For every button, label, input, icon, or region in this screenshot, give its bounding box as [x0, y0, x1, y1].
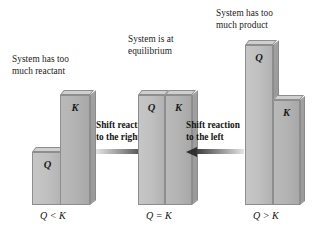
bar-label-k: K [166, 102, 191, 113]
bar-k-group3: K [273, 95, 300, 205]
bar-label-q: Q [33, 159, 62, 170]
relation-q-eq-k: Q = K [146, 210, 172, 221]
bar-front-face: Q [32, 152, 63, 205]
caption-at-equilibrium: System is at equilibrium [128, 34, 220, 57]
bar-side-face [300, 96, 305, 205]
bar-front-face: K [60, 95, 90, 205]
bar-label-q: Q [139, 102, 164, 113]
bar-q-group2: Q [138, 90, 165, 205]
relation-q-lt-k: Q < K [40, 210, 66, 221]
bar-front-face: Q [138, 95, 165, 205]
arrow-shaft [196, 149, 244, 154]
caption-too-much-reactant: System has too much reactant [12, 54, 116, 77]
bar-q-group1: Q [32, 147, 63, 205]
shift-left-arrow [186, 148, 244, 155]
bar-label-k: K [274, 107, 299, 118]
bar-k-group1: K [60, 90, 90, 205]
bar-front-face: Q [245, 45, 273, 205]
arrow-head-left-icon [186, 147, 197, 157]
bar-label-k: K [61, 102, 89, 113]
bar-q-group3: Q [245, 40, 273, 205]
arrow-label-shift-left: Shift reaction to the left [186, 120, 254, 143]
caption-too-much-product: System has too much product [216, 8, 316, 31]
bar-front-face: K [273, 100, 300, 205]
equilibrium-diagram: System has too much reactant Q K Q < K S… [0, 0, 322, 239]
bar-side-face [273, 40, 279, 100]
bar-label-q: Q [246, 52, 272, 63]
relation-q-gt-k: Q > K [253, 210, 279, 221]
